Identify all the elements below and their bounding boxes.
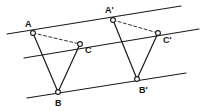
segment-B'C': [137, 33, 158, 79]
segment-AB: [33, 33, 58, 92]
segment-A'B': [113, 20, 137, 79]
vertex-labels-group: A B C A' B' C': [25, 5, 172, 108]
segment-AC: [33, 33, 80, 44]
vertex-label-B: B: [55, 98, 62, 108]
vertex-point-C: [78, 42, 83, 47]
vertex-point-B-prime: [135, 77, 140, 82]
vertex-point-A-prime: [111, 18, 116, 23]
lower-parallel-line: [27, 73, 186, 98]
vertex-label-B-prime: B': [139, 85, 148, 95]
upper-parallel-line: [7, 6, 181, 34]
vertex-markers-group: [31, 18, 161, 95]
segment-A'C': [113, 20, 158, 33]
segment-BC: [58, 44, 80, 92]
vertex-point-B: [56, 90, 61, 95]
vertex-point-C-prime: [156, 31, 161, 36]
vertex-label-A-prime: A': [105, 5, 114, 15]
parallel-lines-group: [7, 6, 199, 98]
vertex-point-A: [31, 31, 36, 36]
geometry-canvas: A B C A' B' C': [0, 0, 209, 111]
vertex-label-A: A: [25, 19, 32, 29]
vertex-label-C-prime: C': [163, 35, 172, 45]
geometry-figure: A B C A' B' C': [0, 0, 209, 111]
triangle-segments-group: [33, 20, 158, 92]
middle-parallel-line: [24, 29, 199, 58]
vertex-label-C: C: [85, 45, 92, 55]
